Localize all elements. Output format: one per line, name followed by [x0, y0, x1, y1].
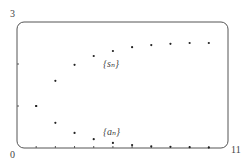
data-point [93, 55, 95, 57]
y-max-label: 3 [10, 9, 15, 19]
origin-label: 0 [10, 150, 15, 160]
data-point [150, 44, 152, 46]
x-max-label: 11 [231, 145, 241, 155]
data-point [150, 145, 152, 147]
data-point [169, 146, 171, 148]
data-point [112, 50, 114, 52]
plot-frame [17, 22, 228, 148]
data-point [73, 64, 75, 66]
data-point [112, 142, 114, 144]
data-point [54, 80, 56, 82]
series-s-label: {sₙ} [103, 59, 119, 69]
data-point [131, 144, 133, 146]
data-point [208, 146, 210, 148]
data-point [131, 46, 133, 48]
series-s-points [35, 42, 210, 107]
series-a-points [35, 105, 210, 149]
data-point [93, 138, 95, 140]
data-point [189, 146, 191, 148]
data-point [73, 132, 75, 134]
plot-area [0, 0, 251, 163]
data-point [169, 43, 171, 45]
data-point [54, 122, 56, 124]
data-point [189, 42, 191, 44]
data-point [35, 105, 37, 107]
data-point [208, 42, 210, 44]
series-a-label: {aₙ} [103, 127, 120, 137]
